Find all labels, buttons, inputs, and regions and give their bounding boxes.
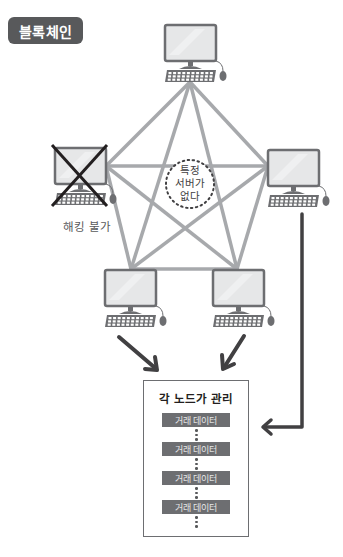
ledger-box: 각 노드가 관리 거래 데이터 거래 데이터 거래 데이터 거래 데이터	[143, 380, 249, 537]
computer-icon	[165, 25, 227, 82]
center-line: 특정	[162, 164, 218, 177]
center-line: 없다	[162, 190, 218, 203]
mouse-cable	[216, 61, 223, 71]
mouse	[323, 196, 330, 206]
mouse	[160, 316, 167, 326]
monitor-stand	[291, 187, 296, 191]
blockchain-diagram: 블록체인 해킹 불가 특정 서버가 없다 각 노드가 관리 거래 데이터 거래 …	[0, 0, 343, 557]
monitor-stand	[236, 307, 241, 311]
chain-dots	[195, 485, 198, 501]
keyboard	[213, 315, 264, 327]
monitor-base	[227, 311, 250, 314]
transaction-block: 거래 데이터	[162, 471, 230, 485]
keyboard	[165, 70, 216, 82]
keyboard	[268, 195, 319, 207]
computer-icon	[213, 270, 275, 327]
title-badge: 블록체인	[8, 17, 83, 44]
hacking-impossible-label: 해킹 불가	[52, 218, 122, 234]
mouse-cable	[156, 306, 163, 316]
transaction-block: 거래 데이터	[162, 413, 230, 427]
arrow-bottom-right-to-ledger	[225, 336, 244, 366]
monitor-base	[119, 311, 142, 314]
mouse-cable	[264, 306, 271, 316]
mouse	[268, 316, 275, 326]
keyboard	[105, 315, 156, 327]
no-central-server-text: 특정 서버가 없다	[162, 164, 218, 203]
transaction-block: 거래 데이터	[162, 442, 230, 456]
center-line: 서버가	[162, 177, 218, 190]
mouse-cable	[319, 186, 326, 196]
computer-icon	[268, 150, 330, 207]
monitor-stand	[128, 307, 133, 311]
monitor-base	[282, 191, 305, 194]
network-link-right-bottom-right	[237, 166, 268, 269]
mouse	[220, 71, 227, 81]
monitor-base	[69, 189, 92, 192]
chain-dots	[195, 456, 198, 472]
monitor-base	[179, 66, 202, 69]
computer-icon	[52, 145, 117, 206]
arrow-bottom-left-to-ledger	[119, 337, 154, 367]
transaction-block: 거래 데이터	[162, 500, 230, 514]
mouse	[110, 194, 117, 204]
monitor-stand	[78, 185, 83, 189]
chain-dots	[195, 427, 198, 443]
ledger-title: 각 노드가 관리	[144, 390, 248, 406]
computer-icon	[105, 270, 167, 327]
monitor-stand	[188, 62, 193, 66]
chain-dots	[195, 514, 198, 530]
